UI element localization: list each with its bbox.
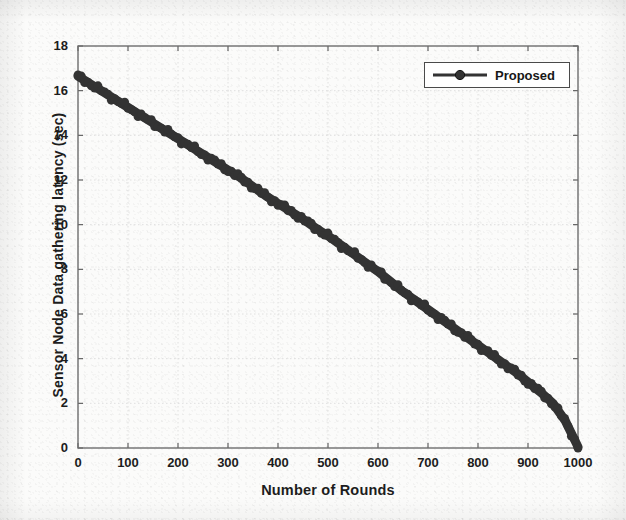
x-axis-label: Number of Rounds bbox=[78, 482, 578, 498]
series-marker bbox=[564, 422, 573, 431]
y-axis-label: Sensor Node Data gathering latency (sec) bbox=[50, 45, 66, 465]
legend-line-marker-icon bbox=[432, 67, 488, 83]
series-marker bbox=[377, 267, 386, 276]
x-tick-label: 1000 bbox=[548, 455, 608, 470]
legend-entry-label: Proposed bbox=[495, 68, 555, 83]
gridlines bbox=[78, 46, 578, 448]
series-marker bbox=[560, 414, 569, 423]
series-marker bbox=[570, 435, 579, 444]
figure-screenshot: 0100200300400500600700800900100002468101… bbox=[0, 0, 626, 520]
series-marker bbox=[554, 403, 563, 412]
legend[interactable]: Proposed bbox=[424, 62, 570, 88]
series-marker bbox=[574, 444, 583, 453]
